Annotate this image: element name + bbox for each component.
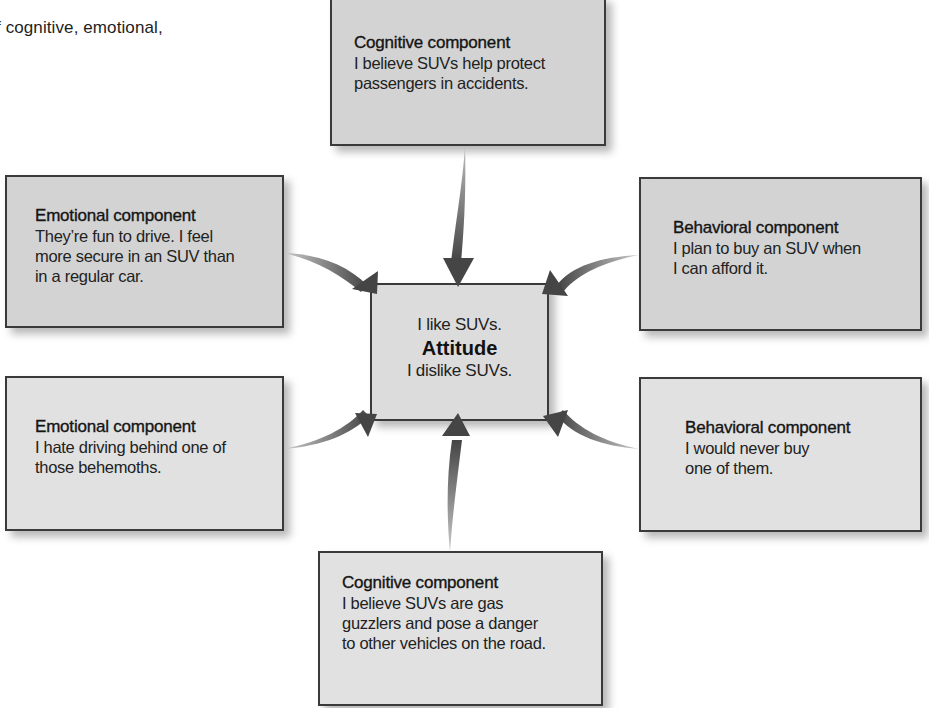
arrow-behavioral-negative-icon (543, 410, 639, 449)
box-text-line: I plan to buy an SUV when (673, 238, 861, 258)
arrow-behavioral-positive-icon (542, 255, 639, 296)
box-title: Cognitive component (354, 33, 545, 53)
box-text-line: They’re fun to drive. I feel (35, 226, 234, 246)
attitude-positive-statement: I like SUVs. (372, 315, 547, 335)
box-title: Emotional component (35, 417, 226, 437)
box-text-line: I believe SUVs are gas (342, 593, 546, 613)
arrow-emotional-positive-icon (284, 253, 378, 294)
box-text-line: I believe SUVs help protect (354, 53, 545, 73)
box-title: Cognitive component (342, 573, 546, 593)
box-text-line: I hate driving behind one of (35, 437, 226, 457)
box-text-line: to other vehicles on the road. (342, 633, 546, 653)
box-title: Emotional component (35, 206, 234, 226)
box-title: Behavioral component (685, 418, 850, 438)
box-text-line: I would never buy (685, 438, 850, 458)
box-title: Behavioral component (673, 218, 861, 238)
cognitive-component-negative-box: Cognitive component I believe SUVs are g… (318, 551, 603, 706)
page-body-text-fragment: f cognitive, emotional, (0, 18, 163, 38)
arrow-cognitive-negative-icon (442, 413, 470, 552)
attitude-center-box: I like SUVs. Attitude I dislike SUVs. (370, 283, 549, 421)
bleed-through-text (640, 60, 646, 86)
behavioral-component-positive-box: Behavioral component I plan to buy an SU… (639, 177, 922, 331)
box-text-line: those behemoths. (35, 457, 226, 477)
box-text-line: passengers in accidents. (354, 73, 545, 93)
box-text-line: guzzlers and pose a danger (342, 613, 546, 633)
box-text-line: more secure in an SUV than (35, 246, 234, 266)
box-text-line: one of them. (685, 458, 850, 478)
cognitive-component-positive-box: Cognitive component I believe SUVs help … (330, 0, 606, 146)
behavioral-component-negative-box: Behavioral component I would never buy o… (639, 377, 922, 532)
attitude-negative-statement: I dislike SUVs. (372, 361, 547, 381)
box-text-line: in a regular car. (35, 266, 234, 286)
emotional-component-negative-box: Emotional component I hate driving behin… (5, 376, 284, 531)
box-text-line: I can afford it. (673, 258, 861, 278)
attitude-title: Attitude (372, 337, 547, 360)
emotional-component-positive-box: Emotional component They’re fun to drive… (5, 175, 284, 328)
arrow-cognitive-positive-icon (443, 146, 474, 287)
arrow-emotional-negative-icon (284, 410, 377, 449)
